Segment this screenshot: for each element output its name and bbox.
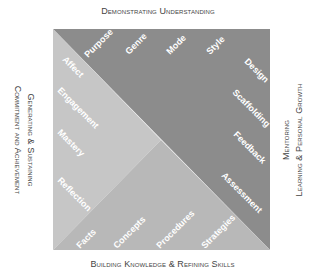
framework-square: Purpose Genre Mode Style Design Scaffold… <box>0 0 316 279</box>
